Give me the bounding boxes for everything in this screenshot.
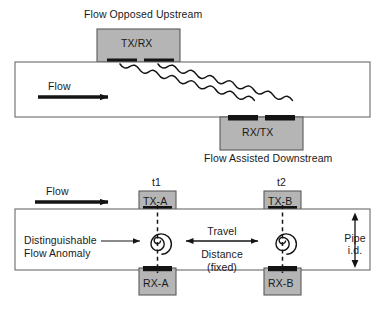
- transducer-label-tx-a: TX-A: [143, 195, 167, 207]
- bottom-flow-label: Flow: [46, 185, 69, 197]
- transducer-pad-rxtx-right: [265, 115, 295, 121]
- transducer-label-tx-b: TX-B: [268, 195, 292, 207]
- transducer-label-rx-a: RX-A: [143, 277, 169, 289]
- anomaly-label-line1: Distinguishable: [24, 234, 97, 246]
- time-marker-t1: t1: [152, 176, 161, 188]
- anomaly-label-line2: Flow Anomaly: [24, 247, 91, 259]
- pipe-id-label-line1: Pipe: [334, 232, 376, 244]
- figure-canvas: Flow Opposed Upstream TX/RX Flow RX/TX F…: [0, 0, 385, 314]
- time-marker-t2: t2: [277, 176, 286, 188]
- travel-label-line1: Travel: [186, 225, 258, 237]
- top-flow-label: Flow: [48, 80, 71, 92]
- transducer-label-rx-b: RX-B: [268, 277, 294, 289]
- transducer-label-txrx: TX/RX: [121, 37, 152, 49]
- travel-label-line3: (fixed): [186, 261, 258, 273]
- downstream-caption: Flow Assisted Downstream: [204, 152, 332, 164]
- upstream-caption: Flow Opposed Upstream: [84, 8, 202, 20]
- travel-label-line2: Distance: [186, 248, 258, 260]
- transducer-label-rxtx: RX/TX: [242, 126, 273, 138]
- pipe-id-label-line2: i.d.: [334, 244, 376, 256]
- transducer-pad-rxtx-left: [228, 115, 258, 121]
